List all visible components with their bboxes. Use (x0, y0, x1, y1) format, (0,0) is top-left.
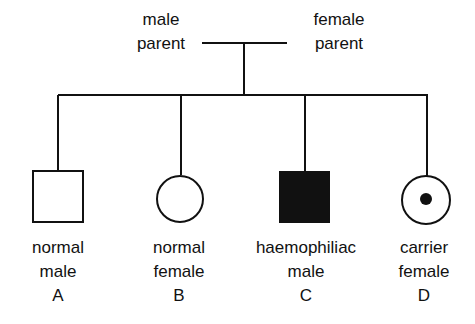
carrier-dot (420, 193, 432, 205)
label-offspring-b: normalfemaleB (109, 236, 249, 308)
symbol-haemophiliac-male (279, 171, 330, 223)
symbol-normal-female (157, 176, 203, 222)
label-male-parent: maleparent (91, 8, 231, 56)
symbol-normal-male (33, 171, 83, 222)
label-offspring-d: carrierfemaleD (354, 236, 475, 308)
label-female-parent: femaleparent (269, 8, 409, 56)
